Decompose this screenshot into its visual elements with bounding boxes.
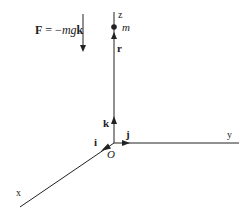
diagram-canvas: F = −mgk z m r k j y i x O (0, 0, 251, 220)
position-vector-arrowhead (111, 32, 117, 39)
x-axis (20, 143, 114, 207)
k-unit-vector-label: k (103, 117, 110, 129)
z-axis-label: z (118, 9, 123, 20)
j-unit-vector-label: j (125, 128, 130, 140)
j-unit-vector-arrowhead (122, 140, 130, 146)
mass-label: m (122, 21, 130, 33)
i-unit-vector-label: i (94, 136, 97, 148)
position-vector-label: r (117, 42, 122, 54)
y-axis-label: y (227, 129, 232, 140)
k-unit-vector-arrowhead (111, 116, 117, 124)
x-axis-label: x (16, 187, 21, 198)
mass-particle (111, 24, 117, 30)
origin-label: O (107, 148, 115, 160)
force-equation: F = −mgk (35, 23, 84, 37)
